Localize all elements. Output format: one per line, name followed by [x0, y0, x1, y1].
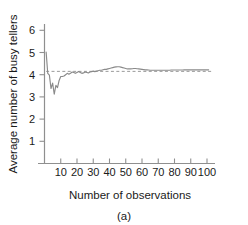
x-tick-label-70: 70	[152, 166, 164, 178]
x-tick-label-80: 80	[168, 166, 180, 178]
y-tick-label-1: 1	[29, 135, 35, 147]
y-tick-label-6: 6	[29, 24, 35, 36]
x-tick-label-40: 40	[103, 166, 115, 178]
x-tick-label-50: 50	[120, 166, 132, 178]
x-tick-label-100: 100	[198, 166, 216, 178]
figure-caption: (a)	[117, 210, 131, 222]
y-tick-label-4: 4	[29, 69, 35, 81]
x-tick-label-30: 30	[87, 166, 99, 178]
y-tick-label-2: 2	[29, 113, 35, 125]
x-tick-label-20: 20	[71, 166, 83, 178]
x-tick-label-90: 90	[185, 166, 197, 178]
x-tick-label-60: 60	[136, 166, 148, 178]
chart-canvas: 123456 102030405060708090100 Average num…	[0, 0, 248, 225]
y-axis-ticks	[40, 30, 45, 141]
y-tick-label-5: 5	[29, 47, 35, 59]
y-axis-title: Average number of busy tellers	[7, 14, 19, 173]
figure-container: 123456 102030405060708090100 Average num…	[0, 0, 248, 225]
x-axis-title: Number of observations	[69, 189, 191, 201]
y-tick-label-3: 3	[29, 91, 35, 103]
x-axis-ticks	[61, 159, 207, 164]
x-tick-label-10: 10	[55, 166, 67, 178]
y-axis-tick-labels: 123456	[29, 24, 35, 147]
data-series-line	[46, 52, 209, 94]
x-axis-tick-labels: 102030405060708090100	[55, 166, 217, 178]
